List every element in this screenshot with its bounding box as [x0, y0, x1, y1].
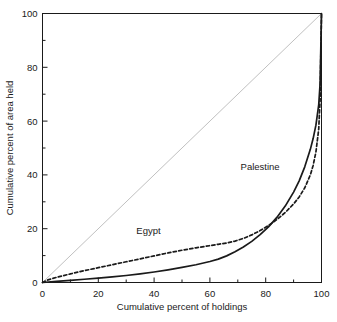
y-tick-label: 100 [22, 8, 38, 19]
y-tick-label: 20 [27, 223, 38, 234]
x-tick-label: 80 [260, 288, 271, 299]
lorenz-curve-chart: 020406080100 020406080100 Palestine Egyp… [0, 0, 337, 322]
y-tick-label: 0 [32, 277, 37, 288]
x-tick-label: 40 [149, 288, 160, 299]
chart-canvas: 020406080100 020406080100 Palestine Egyp… [0, 0, 337, 322]
y-tick-label: 80 [27, 62, 38, 73]
x-axis-title: Cumulative percent of holdings [117, 301, 248, 312]
y-tick-label: 40 [27, 169, 38, 180]
x-tick-label: 20 [93, 288, 104, 299]
y-tick-label: 60 [27, 116, 38, 127]
series-label-egypt: Egypt [136, 225, 161, 236]
x-tick-label: 60 [205, 288, 216, 299]
x-tick-label: 0 [40, 288, 45, 299]
series-label-palestine: Palestine [241, 161, 280, 172]
y-axis-title: Cumulative percent of area held [4, 81, 15, 216]
x-tick-label: 100 [314, 288, 330, 299]
